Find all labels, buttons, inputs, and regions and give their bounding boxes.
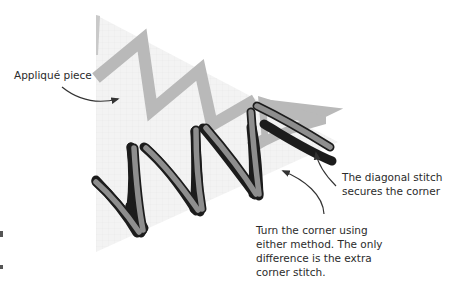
diagonal-stitch-label-line-2: secures the corner bbox=[342, 184, 442, 198]
applique-piece-label: Appliqué piece bbox=[14, 68, 92, 82]
turn-corner-label-line-2: either method. The only bbox=[256, 237, 383, 251]
turn-corner-arrow bbox=[283, 171, 324, 214]
cropped-text-fragment bbox=[0, 265, 3, 269]
cropped-text-fragment bbox=[0, 231, 3, 237]
diagonal-stitch-label-line-1: The diagonal stitch bbox=[342, 170, 442, 184]
corner-stitch-diagram bbox=[0, 0, 458, 293]
turn-corner-label-line-1: Turn the corner using bbox=[256, 223, 383, 237]
turn-corner-label: Turn the corner using either method. The… bbox=[256, 223, 383, 279]
turn-corner-label-line-3: difference is the extra bbox=[256, 251, 383, 265]
turn-corner-label-line-4: corner stitch. bbox=[256, 265, 383, 279]
diagonal-stitch-label: The diagonal stitch secures the corner bbox=[342, 170, 442, 198]
